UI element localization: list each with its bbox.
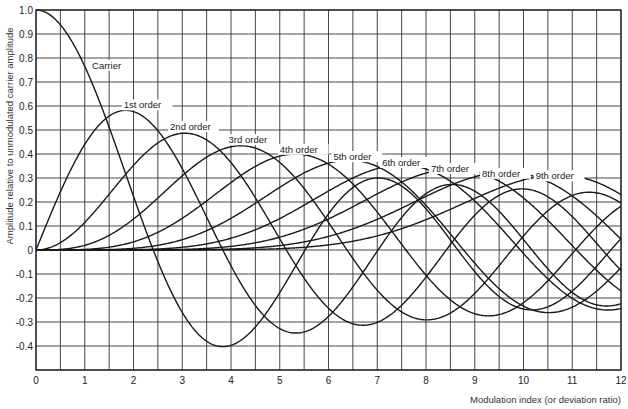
curve-label: 8th order	[482, 168, 520, 179]
y-tick-label: 0.8	[19, 53, 33, 64]
curve-label: 3rd order	[229, 134, 268, 145]
y-tick-label: -0.2	[16, 293, 34, 304]
y-tick-label: -0.4	[16, 341, 34, 352]
x-tick-label: 8	[423, 375, 429, 386]
curve-label: 5th order	[333, 151, 371, 162]
y-axis-title: Amplitude relative to unmodulated carrie…	[4, 27, 15, 244]
curve-label: 9th order	[536, 170, 574, 181]
y-tick-label: 0.3	[19, 173, 33, 184]
y-tick-label: 0.7	[19, 77, 33, 88]
y-tick-label: 0.4	[19, 149, 33, 160]
curve-label: 6th order	[382, 157, 420, 168]
x-tick-label: 9	[472, 375, 478, 386]
curve-label: 1st order	[124, 99, 162, 110]
bessel-chart: 0123456789101112 1.00.90.80.70.60.50.40.…	[0, 0, 628, 409]
x-axis-title: Modulation index (or deviation ratio)	[470, 394, 621, 405]
y-tick-label: -0.1	[16, 269, 34, 280]
x-tick-label: 10	[518, 375, 530, 386]
y-tick-label: 0.9	[19, 29, 33, 40]
y-tick-label: 0.1	[19, 221, 33, 232]
y-tick-label: -0.3	[16, 317, 34, 328]
x-axis-ticks: 0123456789101112	[33, 375, 627, 386]
x-tick-label: 5	[277, 375, 283, 386]
curve-label: Carrier	[92, 60, 121, 71]
x-tick-label: 1	[82, 375, 88, 386]
x-tick-label: 7	[374, 375, 380, 386]
x-tick-label: 3	[179, 375, 185, 386]
curve-label: 7th order	[431, 163, 469, 174]
y-tick-label: 0.5	[19, 125, 33, 136]
x-tick-label: 0	[33, 375, 39, 386]
y-tick-label: 0	[27, 245, 33, 256]
curve-labels: Carrier1st order2nd order3rd order4th or…	[90, 60, 584, 181]
y-tick-label: 1.0	[19, 5, 33, 16]
y-axis-ticks: 1.00.90.80.70.60.50.40.30.20.10-0.1-0.2-…	[16, 5, 34, 352]
x-tick-label: 11	[567, 375, 578, 386]
x-tick-label: 2	[131, 375, 137, 386]
x-tick-label: 4	[228, 375, 234, 386]
x-tick-label: 12	[615, 375, 627, 386]
y-tick-label: 0.2	[19, 197, 33, 208]
curve-label: 4th order	[280, 144, 318, 155]
y-tick-label: 0.6	[19, 101, 33, 112]
x-tick-label: 6	[326, 375, 332, 386]
curve-label: 2nd order	[170, 121, 211, 132]
